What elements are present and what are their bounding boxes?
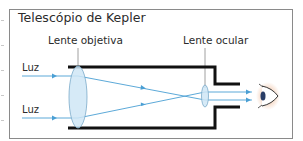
light-label-bottom: Luz xyxy=(22,104,39,115)
light-rays xyxy=(22,76,252,118)
telescope-tube xyxy=(68,67,240,128)
ocular-lens-label: Lente ocular xyxy=(183,34,248,46)
diagram-title: Telescópio de Kepler xyxy=(18,10,146,25)
lens-ocular-icon xyxy=(202,85,209,107)
objective-lens-label: Lente objetiva xyxy=(48,34,123,46)
lens-objective-icon xyxy=(69,66,87,128)
light-label-top: Luz xyxy=(22,62,39,73)
eye-icon xyxy=(256,82,280,110)
